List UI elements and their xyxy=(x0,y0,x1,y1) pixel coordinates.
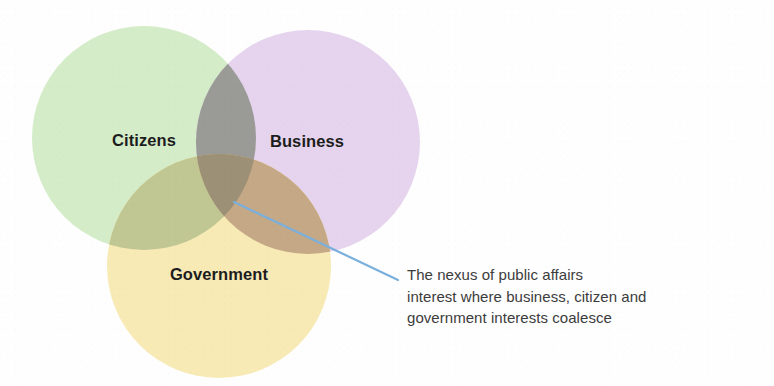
annotation-line-1: The nexus of public affairs xyxy=(407,264,737,286)
venn-label-government: Government xyxy=(170,265,268,284)
annotation-line-3: government interests coalesce xyxy=(407,307,737,329)
venn-label-business: Business xyxy=(270,132,344,151)
venn-diagram-figure: Citizens Business Government The nexus o… xyxy=(0,0,774,386)
annotation-line-2: interest where business, citizen and xyxy=(407,286,737,308)
annotation-callout-text: The nexus of public affairs interest whe… xyxy=(407,264,737,329)
venn-label-citizens: Citizens xyxy=(112,131,176,150)
